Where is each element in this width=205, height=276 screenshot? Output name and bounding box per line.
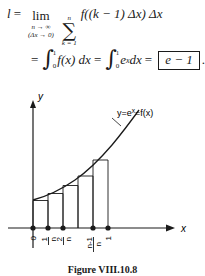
integral-second: ∫ 1 0 — [105, 50, 119, 70]
sigma-icon: ∑ — [62, 22, 76, 39]
equals-sign-2: = — [31, 52, 38, 68]
integral-icon: ∫ — [105, 51, 116, 67]
summation-lower-limit: k = 1 — [62, 39, 77, 47]
integral-first: ∫ 1 0 — [42, 50, 56, 70]
figure-page: l = lim n → ∞ (Δx → 0) n ∑ k = 1 f((k − … — [0, 0, 205, 276]
tick-label-0-text: 0 — [29, 235, 38, 240]
equation-block: l = lim n → ∞ (Δx → 0) n ∑ k = 1 f((k − … — [0, 0, 205, 82]
equation-lhs: l — [7, 6, 11, 22]
graph-svg: y x y=ex=f(x) 0 1 n — [0, 88, 205, 276]
tick-label-1-text: 1 — [104, 235, 113, 240]
equation-line-1: l = lim n → ∞ (Δx → 0) n ∑ k = 1 f((k − … — [7, 6, 162, 45]
y-axis-arrow-icon — [30, 100, 36, 108]
tick-label-n-minus-1-over-n-num: n-1 — [85, 236, 94, 248]
tick-dot — [30, 225, 35, 230]
figure-graph: y x y=ex=f(x) 0 1 n — [0, 88, 205, 276]
limit-subscript-top: n → ∞ — [31, 23, 50, 31]
tick-label-n-minus-1-over-n: n-1 n — [85, 236, 103, 252]
integral-icon: ∫ — [42, 51, 53, 67]
trailing-period: . — [202, 52, 205, 68]
equals-sign-4: = — [145, 52, 152, 68]
tick-label-2-over-n: 2 n — [55, 236, 73, 245]
equals-sign-1: = — [14, 6, 21, 22]
x-axis-tick-labels: 0 1 n 2 n n-1 n — [29, 235, 113, 252]
tick-label-0: 0 — [29, 235, 38, 240]
equation-line-2: = ∫ 1 0 f(x) dx = ∫ 1 0 ex dx = e − 1 . — [28, 50, 205, 70]
tick-label-2-over-n-den: n — [64, 237, 73, 241]
exponential-curve — [33, 110, 139, 200]
summand-expression: f((k − 1) Δx) Δx — [81, 6, 163, 22]
tick-dot — [45, 225, 50, 230]
tick-label-1: 1 — [104, 235, 113, 240]
y-axis-label: y — [37, 91, 44, 102]
riemann-rectangles — [33, 160, 108, 228]
curve-label-prefix: y=e — [117, 108, 132, 118]
limit-operator: lim n → ∞ (Δx → 0) — [28, 9, 54, 39]
tick-dot — [60, 225, 65, 230]
tick-dot — [90, 225, 95, 230]
integrand-second-tail: dx — [130, 52, 142, 68]
figure-caption: Figure VIII.10.8 — [0, 264, 205, 275]
svg-text:y=ex=f(x): y=ex=f(x) — [117, 107, 153, 119]
boxed-result: e − 1 — [158, 51, 200, 70]
limit-word: lim — [32, 9, 49, 22]
equals-sign-3: = — [94, 52, 101, 68]
tick-label-2-over-n-num: 2 — [55, 236, 64, 241]
curve-label: y=ex=f(x) — [117, 107, 153, 119]
summation-operator: n ∑ k = 1 — [62, 15, 77, 47]
tick-dot — [105, 225, 110, 230]
x-axis-label: x — [180, 223, 187, 234]
x-axis-arrow-icon — [166, 225, 175, 232]
curve-label-leader — [112, 118, 121, 126]
integrand-first: f(x) dx — [57, 52, 91, 68]
tick-label-1-over-n-num: 1 — [40, 236, 49, 241]
curve-label-suffix: =f(x) — [135, 108, 153, 118]
tick-label-n-minus-1-over-n-den: n — [94, 242, 103, 246]
limit-subscript-bottom: (Δx → 0) — [28, 31, 54, 39]
